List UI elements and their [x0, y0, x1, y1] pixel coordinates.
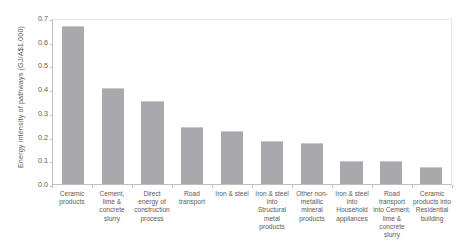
bar — [340, 161, 362, 184]
x-axis-tick-mark — [132, 185, 133, 188]
bar-slot — [252, 20, 292, 184]
x-axis-tick-mark — [452, 185, 453, 188]
x-axis-category-label: Iron & steel into Structural metal produ… — [252, 190, 292, 246]
bar-slot — [411, 20, 451, 184]
plot-area — [52, 19, 452, 185]
bar-chart: Energy intensity of pathways (GJ/A$1,000… — [0, 0, 460, 249]
bar-slot — [371, 20, 411, 184]
y-axis-tick-label: 0.4 — [24, 86, 48, 94]
x-axis-tick-mark — [332, 185, 333, 188]
bar-slot — [93, 20, 133, 184]
bar-slot — [332, 20, 372, 184]
x-axis-tick-mark — [92, 185, 93, 188]
x-axis-category-label: Cement, lime & concrete slurry — [92, 190, 132, 246]
x-axis-category-label: Road transport into Cement, lime & concr… — [372, 190, 412, 246]
y-axis-tick-label: 0.7 — [24, 15, 48, 23]
x-axis-category-label: Road transport — [172, 190, 212, 246]
x-axis-category-label: Ceramic products — [52, 190, 92, 246]
y-axis-tick-label: 0.6 — [24, 39, 48, 47]
y-axis-tick-label: 0.0 — [24, 181, 48, 189]
bar-slot — [172, 20, 212, 184]
x-axis-category-label: Direct energy of construction process — [132, 190, 172, 246]
bar — [420, 167, 442, 184]
y-axis-tick-mark — [50, 162, 53, 163]
y-axis-tick-label: 0.2 — [24, 134, 48, 142]
y-axis-tick-mark — [50, 91, 53, 92]
y-axis-tick-label: 0.3 — [24, 110, 48, 118]
x-axis-tick-mark — [412, 185, 413, 188]
bar-slot — [212, 20, 252, 184]
bar — [380, 161, 402, 184]
x-axis-tick-marks — [52, 185, 452, 189]
bar-slot — [133, 20, 173, 184]
x-axis-tick-mark — [52, 185, 53, 188]
x-axis-category-label: Ceramic products into Residential buildi… — [412, 190, 452, 246]
y-axis-tick-mark — [50, 115, 53, 116]
bar — [102, 88, 124, 184]
y-axis-tick-label: 0.1 — [24, 157, 48, 165]
x-axis-category-label: Iron & steel — [212, 190, 252, 246]
x-axis-category-label: Other non-metallic mineral products — [292, 190, 332, 246]
x-axis-tick-mark — [212, 185, 213, 188]
bar-slot — [292, 20, 332, 184]
bar — [141, 101, 163, 184]
x-axis-tick-mark — [172, 185, 173, 188]
y-axis-tick-mark — [50, 139, 53, 140]
y-axis-tick-mark — [50, 20, 53, 21]
bar-slot — [53, 20, 93, 184]
bar — [62, 26, 84, 184]
x-axis-category-label: Iron & steel into Household appliances — [332, 190, 372, 246]
x-axis-tick-mark — [292, 185, 293, 188]
bar-series — [53, 20, 451, 184]
y-axis-tick-labels: 0.70.60.50.40.30.20.10.0 — [24, 12, 48, 192]
y-axis-tick-label: 0.5 — [24, 62, 48, 70]
bar — [221, 131, 243, 184]
y-axis-tick-mark — [50, 67, 53, 68]
bar — [261, 141, 283, 184]
bar — [301, 143, 323, 184]
bar — [181, 127, 203, 184]
x-axis-tick-mark — [252, 185, 253, 188]
x-axis-category-labels: Ceramic productsCement, lime & concrete … — [52, 190, 452, 246]
y-axis-tick-mark — [50, 44, 53, 45]
x-axis-tick-mark — [372, 185, 373, 188]
